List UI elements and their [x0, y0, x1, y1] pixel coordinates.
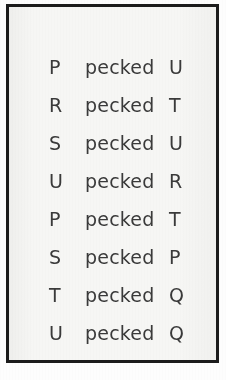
- verb-label: pecked: [85, 314, 157, 352]
- list-item: S pecked P: [9, 238, 216, 276]
- object-letter: T: [169, 200, 205, 238]
- subject-letter: R: [49, 86, 85, 124]
- subject-letter: U: [49, 314, 85, 352]
- bordered-text-box: P pecked U R pecked T S pecked U U pecke…: [6, 4, 219, 363]
- list-item: P pecked U: [9, 48, 216, 86]
- list-item: S pecked U: [9, 124, 216, 162]
- verb-label: pecked: [85, 276, 157, 314]
- list-item: P pecked T: [9, 200, 216, 238]
- list-item: T pecked Q: [9, 276, 216, 314]
- object-letter: R: [169, 162, 205, 200]
- verb-label: pecked: [85, 200, 157, 238]
- verb-label: pecked: [85, 124, 157, 162]
- object-letter: P: [169, 238, 205, 276]
- object-letter: Q: [169, 276, 205, 314]
- object-letter: Q: [169, 314, 205, 352]
- statement-list: P pecked U R pecked T S pecked U U pecke…: [9, 48, 216, 352]
- object-letter: U: [169, 48, 205, 86]
- subject-letter: P: [49, 48, 85, 86]
- list-item: R pecked T: [9, 86, 216, 124]
- list-item: U pecked Q: [9, 314, 216, 352]
- verb-label: pecked: [85, 238, 157, 276]
- list-item: U pecked R: [9, 162, 216, 200]
- page: P pecked U R pecked T S pecked U U pecke…: [0, 0, 226, 380]
- object-letter: U: [169, 124, 205, 162]
- subject-letter: S: [49, 238, 85, 276]
- subject-letter: U: [49, 162, 85, 200]
- verb-label: pecked: [85, 48, 157, 86]
- object-letter: T: [169, 86, 205, 124]
- subject-letter: T: [49, 276, 85, 314]
- subject-letter: S: [49, 124, 85, 162]
- verb-label: pecked: [85, 162, 157, 200]
- verb-label: pecked: [85, 86, 157, 124]
- subject-letter: P: [49, 200, 85, 238]
